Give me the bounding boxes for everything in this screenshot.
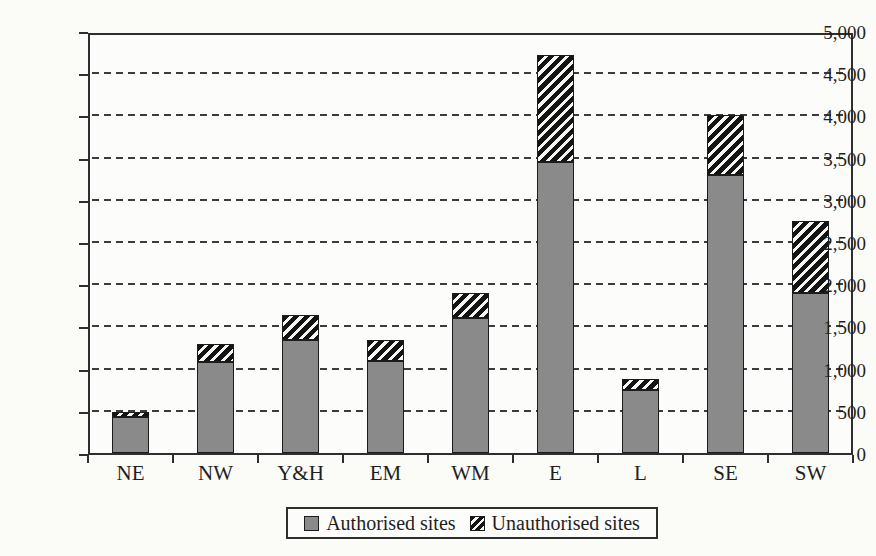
segment-solid-gray	[707, 175, 744, 453]
legend: Authorised sites Unauthorised sites	[286, 507, 658, 539]
segment-diagonal-hatch	[282, 315, 319, 340]
x-axis-label-nw: NW	[173, 461, 258, 486]
y-axis-label: 1,000	[796, 361, 866, 381]
x-axis-label-ne: NE	[88, 461, 173, 486]
x-axis-label-yh: Y&H	[258, 461, 343, 486]
bar-ne	[112, 412, 149, 453]
x-axis-label-se: SE	[683, 461, 768, 486]
authorised-swatch-icon	[304, 516, 319, 531]
y-axis-label: 3,500	[796, 150, 866, 170]
y-axis-tick	[79, 32, 88, 34]
unauthorised-swatch-icon	[470, 516, 485, 531]
stacked-bar-chart-figure: 05001,0001,5002,0002,5003,0003,5004,0004…	[0, 0, 876, 556]
y-axis-tick	[79, 116, 88, 118]
y-axis-label: 2,500	[796, 234, 866, 254]
x-axis-label-sw: SW	[768, 461, 853, 486]
legend-label-authorised: Authorised sites	[326, 512, 455, 535]
bar-se	[707, 115, 744, 453]
y-axis-tick	[79, 159, 88, 161]
y-axis-label: 5,000	[796, 23, 866, 43]
segment-solid-gray	[537, 162, 574, 453]
y-axis-label: 2,000	[796, 276, 866, 296]
bar-em	[367, 340, 404, 453]
plot-area	[88, 33, 853, 455]
bar-e	[537, 55, 574, 453]
y-axis-tick	[79, 370, 88, 372]
segment-diagonal-hatch	[197, 344, 234, 362]
segment-solid-gray	[282, 340, 319, 453]
bar-nw	[197, 344, 234, 453]
x-axis-label-l: L	[598, 461, 683, 486]
segment-solid-gray	[112, 417, 149, 453]
bar-wm	[452, 293, 489, 453]
segment-solid-gray	[197, 362, 234, 453]
bar-yh	[282, 315, 319, 453]
y-axis-label: 3,000	[796, 192, 866, 212]
x-axis-label-em: EM	[343, 461, 428, 486]
x-axis-label-e: E	[513, 461, 598, 486]
y-axis-label: 4,500	[796, 65, 866, 85]
segment-diagonal-hatch	[452, 293, 489, 318]
segment-solid-gray	[452, 318, 489, 453]
y-axis-tick	[79, 201, 88, 203]
legend-item-authorised: Authorised sites	[304, 512, 455, 535]
segment-solid-gray	[367, 361, 404, 453]
bar-l	[622, 379, 659, 453]
y-axis-tick	[79, 412, 88, 414]
y-axis-label: 4,000	[796, 107, 866, 127]
segment-diagonal-hatch	[537, 55, 574, 162]
legend-label-unauthorised: Unauthorised sites	[492, 512, 640, 535]
x-axis-label-wm: WM	[428, 461, 513, 486]
segment-solid-gray	[622, 390, 659, 453]
segment-diagonal-hatch	[707, 115, 744, 175]
segment-diagonal-hatch	[622, 379, 659, 390]
y-axis-label: 1,500	[796, 318, 866, 338]
y-axis-label: 500	[796, 403, 866, 423]
y-axis-tick	[79, 327, 88, 329]
y-axis-tick	[79, 74, 88, 76]
segment-diagonal-hatch	[367, 340, 404, 361]
y-axis-tick	[79, 243, 88, 245]
legend-item-unauthorised: Unauthorised sites	[470, 512, 640, 535]
gridline-4500	[92, 72, 849, 74]
y-axis-tick	[79, 285, 88, 287]
